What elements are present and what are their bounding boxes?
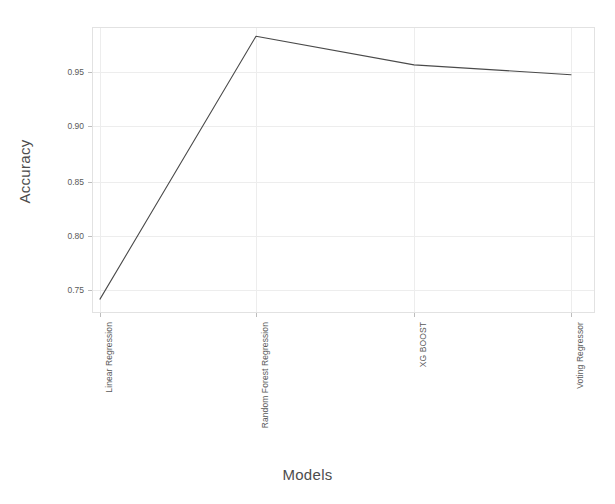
- y-tick-label-0.95: 0.95: [44, 67, 84, 77]
- y-tick-label-0.90: 0.90: [44, 121, 84, 131]
- y-tick-label-0.85: 0.85: [44, 177, 84, 187]
- x-axis-title: Models: [0, 466, 615, 483]
- y-axis-title: Accuracy: [16, 112, 33, 232]
- x-tick-label-linear-regression: Linear Regression: [104, 322, 114, 393]
- x-tick-label-random-forest-regression: Random Forest Regression: [260, 322, 270, 428]
- plot-area: [92, 27, 595, 313]
- y-tick-label-0.80: 0.80: [44, 231, 84, 241]
- x-tick-label-xg-boost: XG BOOST: [418, 322, 428, 367]
- chart-figure: 0.95 0.90 0.85 0.80 0.75 Linear Regressi…: [0, 0, 615, 504]
- accuracy-line-series: [93, 28, 596, 314]
- y-tick-label-0.75: 0.75: [44, 285, 84, 295]
- x-tick-label-voting-regressor: Voting Regressor: [575, 322, 585, 389]
